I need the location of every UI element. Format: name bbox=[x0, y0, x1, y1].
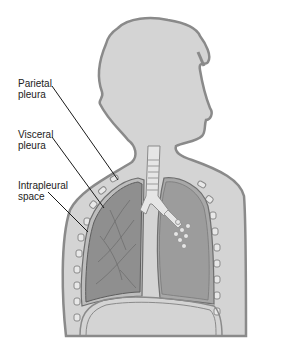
anatomy-illustration bbox=[0, 0, 282, 353]
label-intrapleural-space: Intrapleural space bbox=[18, 180, 68, 202]
pleura-diagram: Parietal pleura Visceral pleura Intraple… bbox=[0, 0, 282, 353]
label-visceral-pleura: Visceral pleura bbox=[18, 129, 53, 151]
label-parietal-pleura: Parietal pleura bbox=[18, 78, 52, 100]
